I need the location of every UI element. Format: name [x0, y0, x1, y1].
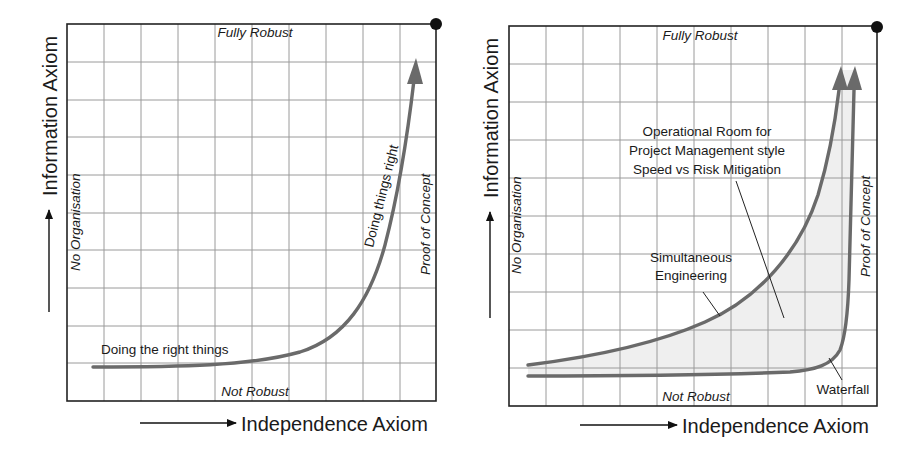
right-left-label: No Organisation [509, 176, 524, 274]
waterfall-label: Waterfall [817, 382, 870, 397]
operational-room-line2: Project Management style [629, 143, 785, 158]
operational-room-line3: Speed vs Risk Mitigation [633, 162, 781, 177]
waterfall-callout-line [829, 358, 842, 380]
left-curve-label-low: Doing the right things [101, 342, 229, 357]
left-y-axis-title: Information Axiom [39, 36, 61, 196]
right-bottom-label: Not Robust [662, 389, 731, 404]
right-right-label: Proof of Concept [858, 174, 873, 277]
simultaneous-callout-line [703, 292, 720, 316]
right-y-axis-title: Information Axiom [480, 38, 502, 198]
right-diagram: Fully Robust Not Robust No Organisation … [480, 21, 883, 437]
left-bottom-label: Not Robust [221, 384, 290, 399]
left-right-label: Proof of Concept [418, 172, 433, 275]
left-top-label: Fully Robust [217, 25, 293, 40]
left-corner-dot [430, 18, 442, 30]
left-x-axis-title: Independence Axiom [241, 413, 428, 435]
simultaneous-label-line2: Engineering [655, 268, 727, 283]
right-x-axis-title: Independence Axiom [682, 415, 869, 437]
left-left-label: No Organisation [68, 173, 83, 271]
left-diagram: Fully Robust Not Robust No Organisation … [39, 18, 442, 435]
simultaneous-label-line1: Simultaneous [650, 250, 732, 265]
diagram-canvas: Fully Robust Not Robust No Organisation … [0, 0, 910, 464]
right-corner-dot [871, 21, 883, 33]
operational-room-line1: Operational Room for [642, 124, 772, 139]
right-top-label: Fully Robust [662, 28, 738, 43]
